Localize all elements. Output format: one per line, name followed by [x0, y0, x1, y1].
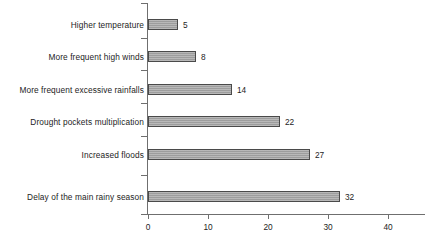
- bar-value-label: 14: [237, 85, 246, 95]
- bar-value-label: 8: [201, 52, 206, 62]
- x-axis-tick-label: 30: [323, 222, 332, 232]
- category-label: More frequent high winds: [48, 52, 144, 62]
- x-axis-tick: [328, 214, 329, 219]
- category-label: Delay of the main rainy season: [27, 192, 144, 202]
- y-axis-tick: [141, 136, 147, 137]
- x-axis-tick-label: 20: [263, 222, 272, 232]
- bar-drought-pockets-multiplication: [148, 116, 280, 127]
- bar-delay-of-the-main-rainy-season: [148, 191, 340, 202]
- y-axis-tick: [141, 70, 147, 71]
- category-label: Drought pockets multiplication: [30, 117, 144, 127]
- category-label: Increased floods: [82, 150, 144, 160]
- x-axis-line: [147, 214, 425, 215]
- x-axis-tick-label: 40: [383, 222, 392, 232]
- y-axis-tick: [141, 214, 147, 215]
- bar-value-label: 32: [345, 192, 354, 202]
- bar-increased-floods: [148, 149, 310, 160]
- y-axis-line: [147, 3, 148, 215]
- bar-higher-temperature: [148, 19, 178, 30]
- x-axis-tick: [268, 214, 269, 219]
- x-axis-tick-label: 0: [146, 222, 151, 232]
- x-axis-tick-label: 10: [203, 222, 212, 232]
- x-axis-tick: [148, 214, 149, 219]
- bar-value-label: 27: [315, 150, 324, 160]
- bar-more-frequent-high-winds: [148, 51, 196, 62]
- category-label: Higher temperature: [71, 20, 144, 30]
- category-label: More frequent excessive rainfalls: [19, 85, 144, 95]
- bar-value-label: 22: [285, 117, 294, 127]
- y-axis-tick: [141, 103, 147, 104]
- bar-chart: Higher temperature More frequent high wi…: [0, 0, 430, 244]
- bar-more-frequent-excessive-rainfalls: [148, 84, 232, 95]
- x-axis-tick: [388, 214, 389, 219]
- y-axis-tick: [141, 3, 147, 4]
- y-axis-tick: [141, 38, 147, 39]
- bar-value-label: 5: [183, 20, 188, 30]
- x-axis-tick: [208, 214, 209, 219]
- y-axis-tick: [141, 175, 147, 176]
